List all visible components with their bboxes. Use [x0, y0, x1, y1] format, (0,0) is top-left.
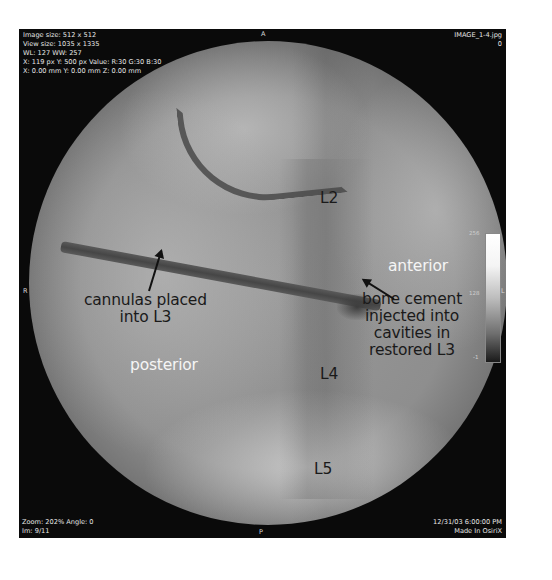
- image-number: Im: 9/11: [22, 527, 94, 536]
- zoom-angle: Zoom: 202% Angle: 0: [22, 518, 94, 527]
- cement-caption: bone cement injected into cavities in re…: [362, 291, 462, 359]
- colorbar-min: -1: [473, 354, 478, 360]
- file-name: IMAGE_1-4.jpg: [454, 31, 502, 40]
- image-info-overlay: Image size: 512 x 512 View size: 1035 x …: [23, 31, 162, 76]
- image-size: Image size: 512 x 512: [23, 31, 162, 40]
- label-l2: L2: [320, 190, 338, 207]
- label-anterior: anterior: [388, 258, 448, 275]
- orientation-top: A: [261, 30, 265, 38]
- file-info-overlay: IMAGE_1-4.jpg 0: [454, 31, 502, 49]
- orientation-right: L: [501, 287, 505, 295]
- lumbar-spine: [279, 159, 374, 499]
- window-level: WL: 127 WW: 257: [23, 49, 162, 58]
- colorbar-max: 256: [469, 230, 480, 236]
- colorbar-mid: 128: [469, 290, 480, 296]
- label-l5: L5: [314, 461, 332, 478]
- label-posterior: posterior: [130, 357, 198, 374]
- date-info-overlay: 12/31/03 6:00:00 PM Made In OsiriX: [433, 518, 502, 536]
- orientation-left: R: [23, 287, 28, 295]
- image-index: 0: [454, 40, 502, 49]
- timestamp: 12/31/03 6:00:00 PM: [433, 518, 502, 527]
- mm-coordinates: X: 0.00 mm Y: 0.00 mm Z: 0.00 mm: [23, 67, 162, 76]
- grayscale-colorbar: [485, 233, 501, 363]
- pixel-value: X: 119 px Y: 500 px Value: R:30 G:30 B:3…: [23, 58, 162, 67]
- made-in-osirix: Made In OsiriX: [433, 527, 502, 536]
- image-viewer[interactable]: Image size: 512 x 512 View size: 1035 x …: [19, 29, 506, 538]
- label-l4: L4: [320, 366, 338, 383]
- orientation-bottom: P: [259, 528, 263, 536]
- cannula-caption: cannulas placed into L3: [84, 292, 207, 326]
- view-size: View size: 1035 x 1335: [23, 40, 162, 49]
- zoom-info-overlay: Zoom: 202% Angle: 0 Im: 9/11: [22, 518, 94, 536]
